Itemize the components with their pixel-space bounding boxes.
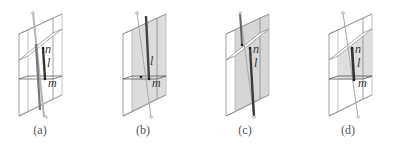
- label-m: m: [48, 76, 57, 90]
- figure: n l m (a) l m (b): [0, 0, 399, 149]
- panel-d-diagram: n l m: [300, 0, 399, 125]
- panel-a-diagram: n l m: [0, 0, 100, 125]
- label-n: n: [45, 42, 51, 56]
- panel-c: n l (c): [200, 0, 300, 149]
- label-n: n: [355, 42, 361, 56]
- label-n: n: [253, 42, 259, 56]
- panel-a: n l m (a): [0, 0, 100, 149]
- panel-c-diagram: n l: [200, 0, 300, 125]
- panel-d: n l m (d): [300, 0, 399, 149]
- label-l: l: [47, 56, 51, 70]
- label-m: m: [358, 76, 367, 90]
- label-m: m: [152, 76, 161, 90]
- panel-b-diagram: l m: [100, 0, 200, 125]
- caption-b: (b): [93, 123, 193, 138]
- caption-a: (a): [0, 123, 90, 138]
- panel-b: l m (b): [100, 0, 200, 149]
- caption-c: (c): [195, 123, 295, 138]
- caption-d: (d): [298, 123, 398, 138]
